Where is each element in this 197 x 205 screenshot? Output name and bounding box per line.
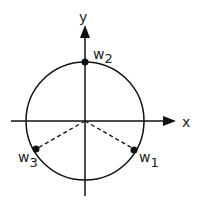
label-w1-base: w — [139, 149, 150, 165]
label-w3-sub: 3 — [29, 155, 37, 170]
y-axis-label: y — [79, 9, 87, 25]
x-axis-label: x — [182, 114, 190, 130]
label-w1: w1 — [139, 149, 159, 170]
label-w1-sub: 1 — [150, 155, 158, 170]
label-w2-base: w — [93, 46, 104, 62]
point-w1 — [131, 147, 138, 154]
y-axis-arrow-icon — [80, 25, 90, 38]
point-w2 — [82, 59, 89, 66]
label-w2-sub: 2 — [104, 51, 112, 66]
dashed-radius-w3 — [36, 121, 85, 149]
x-axis-arrow-icon — [163, 116, 176, 126]
point-w3 — [33, 146, 40, 153]
label-w3-base: w — [18, 149, 29, 165]
dashed-radius-w1 — [85, 121, 134, 149]
unit-circle-diagram: y x w2 w1 w3 — [0, 0, 197, 205]
